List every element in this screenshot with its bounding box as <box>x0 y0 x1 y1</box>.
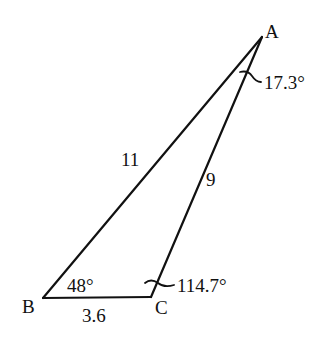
vertex-label-b: B <box>22 297 35 316</box>
angle-label-c: 114.7° <box>177 276 227 295</box>
side-ab <box>43 37 262 298</box>
side-label-bc: 3.6 <box>82 306 106 325</box>
triangle-diagram: A B C 11 9 3.6 17.3° 48° 114.7° <box>0 0 327 342</box>
angle-label-a: 17.3° <box>264 73 305 92</box>
angle-arc-c <box>145 281 174 287</box>
vertex-label-c: C <box>155 298 168 317</box>
triangle-figure <box>0 0 327 342</box>
side-label-ab: 11 <box>121 150 139 169</box>
side-ac <box>151 37 262 297</box>
side-label-ac: 9 <box>206 170 216 189</box>
angle-label-b: 48° <box>67 276 94 295</box>
vertex-label-a: A <box>265 22 279 41</box>
side-bc <box>43 297 151 298</box>
